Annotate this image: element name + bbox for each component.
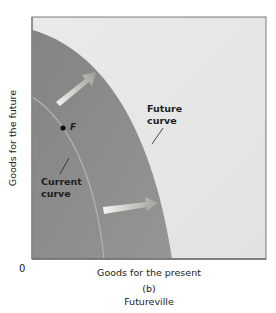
future-curve-label-line1: Future — [147, 103, 182, 115]
future-curve-label: Future curve — [147, 103, 182, 127]
x-axis-label: Goods for the present — [32, 267, 266, 278]
y-axis-label-text: Goods for the future — [7, 90, 18, 186]
panel-label: (b) — [32, 283, 266, 294]
current-curve-label: Current curve — [41, 176, 82, 200]
point-f-label: F — [70, 122, 76, 132]
origin-label: 0 — [19, 263, 25, 274]
future-curve-label-line2: curve — [147, 115, 182, 127]
current-curve-label-line2: curve — [41, 188, 82, 200]
ppf-figure: F Current curve Future curve Goods for t… — [0, 0, 276, 313]
figure-caption: Futureville — [32, 296, 266, 307]
point-f-marker — [60, 125, 65, 130]
current-curve-label-line1: Current — [41, 176, 82, 188]
